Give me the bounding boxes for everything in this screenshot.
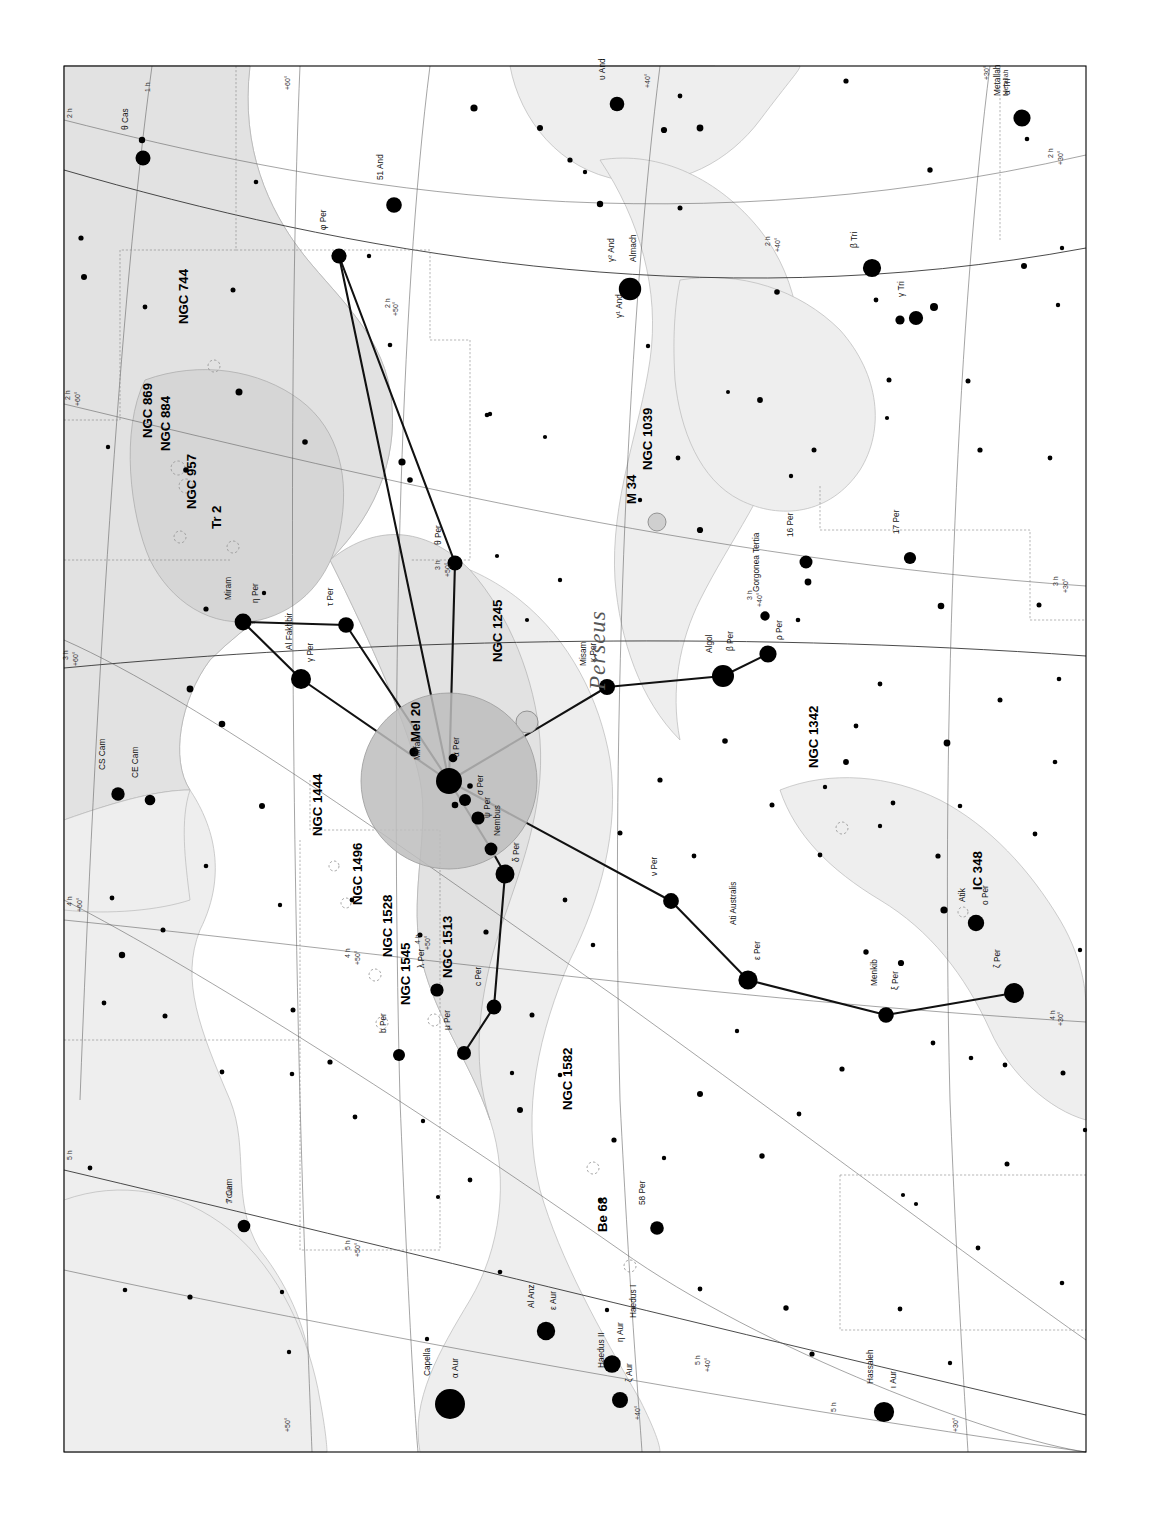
grid-label: 2 h xyxy=(1047,148,1054,158)
field-star xyxy=(726,390,730,394)
field-star xyxy=(931,1041,936,1046)
label-m-34: M 34 xyxy=(624,474,639,504)
label--per: ξ Per xyxy=(890,971,900,990)
field-star xyxy=(854,724,859,729)
grid-label: Metallah xyxy=(1002,69,1009,96)
star--and xyxy=(610,97,625,112)
label-capella: Capella xyxy=(422,1347,432,1376)
field-star xyxy=(1033,832,1038,837)
field-star xyxy=(735,1029,739,1033)
label--per: ψ Per xyxy=(482,797,492,818)
grid-label: 3 h xyxy=(62,650,69,660)
star--aur xyxy=(612,1392,628,1408)
field-star xyxy=(163,1014,168,1019)
field-star xyxy=(219,721,226,728)
field-star xyxy=(203,606,208,611)
field-star xyxy=(106,445,110,449)
field-star xyxy=(436,1195,440,1199)
grid-label: 3 h xyxy=(746,590,753,600)
label--per: φ Per xyxy=(318,209,328,230)
grid-label: +50° xyxy=(354,1242,361,1257)
field-star xyxy=(1078,948,1082,952)
grid-label: +30° xyxy=(1057,150,1064,165)
label-ngc-884: NGC 884 xyxy=(158,395,173,451)
field-star xyxy=(591,943,596,948)
field-star xyxy=(236,389,243,396)
label-nembus: Nembus xyxy=(492,805,502,836)
grid-label: +60° xyxy=(76,897,83,912)
label--and: γ¹ And xyxy=(614,294,624,318)
label-cs-cam: CS Cam xyxy=(97,739,107,770)
field-star xyxy=(874,298,879,303)
star-16-per xyxy=(800,556,813,569)
label-b-per: b Per xyxy=(378,1013,388,1033)
field-star xyxy=(187,1294,192,1299)
field-star xyxy=(517,1107,523,1113)
label-51-and: 51 And xyxy=(375,154,385,180)
label--cas: θ Cas xyxy=(120,108,130,130)
field-star xyxy=(367,254,371,258)
constellation-name: Perseus xyxy=(585,610,610,691)
field-star xyxy=(891,801,896,806)
star--per xyxy=(459,794,471,806)
star--per xyxy=(712,665,734,687)
field-star xyxy=(818,853,823,858)
label--aur: η Aur xyxy=(615,1322,625,1342)
grid-label: +40° xyxy=(644,73,651,88)
label-16-per: 16 Per xyxy=(785,512,795,537)
star--per xyxy=(338,617,354,633)
field-star xyxy=(231,288,236,293)
field-star xyxy=(262,591,266,595)
label--aur: α Aur xyxy=(450,1358,460,1378)
field-star xyxy=(1060,1281,1065,1286)
label-ngc-869: NGC 869 xyxy=(140,383,155,438)
label--tri: β Tri xyxy=(849,231,859,248)
field-star xyxy=(759,1153,764,1158)
field-star xyxy=(697,527,703,533)
field-star xyxy=(498,1270,503,1275)
star-ce-cam xyxy=(145,795,156,806)
label--per: δ Per xyxy=(511,842,521,862)
field-star xyxy=(1057,677,1062,682)
field-star xyxy=(901,1193,905,1197)
field-star xyxy=(678,206,683,211)
label-hassaleh: Hassaleh xyxy=(865,1349,875,1384)
field-star xyxy=(940,906,947,913)
field-star xyxy=(935,853,940,858)
field-star xyxy=(353,1115,358,1120)
label-algol: Algol xyxy=(704,634,714,653)
label-ngc-1245: NGC 1245 xyxy=(490,600,505,662)
field-star xyxy=(657,777,662,782)
label-17-per: 17 Per xyxy=(891,509,901,534)
label-mirfak: Mirfak xyxy=(412,737,422,760)
field-star xyxy=(944,740,951,747)
star--aur xyxy=(874,1402,894,1422)
grid-label: +30° xyxy=(952,1417,959,1432)
field-star xyxy=(809,1351,814,1356)
field-star xyxy=(722,738,728,744)
field-star xyxy=(78,235,83,240)
field-star xyxy=(887,378,892,383)
field-star xyxy=(966,379,971,384)
label-mel-20: Mel 20 xyxy=(408,702,423,742)
field-star xyxy=(525,618,529,622)
grid-label: 4 h xyxy=(66,896,73,906)
field-star xyxy=(143,305,148,310)
field-star xyxy=(485,413,490,418)
field-star xyxy=(1003,1063,1008,1068)
label--per: β Per xyxy=(725,631,735,651)
field-star xyxy=(678,94,683,99)
star-7-cam xyxy=(238,1220,251,1233)
constellation-name-layer: Perseus xyxy=(585,610,610,691)
star--per xyxy=(878,1007,893,1022)
star--per xyxy=(738,970,757,989)
label-ati-australis: Ati Australis xyxy=(728,882,738,925)
star--tri xyxy=(895,315,904,324)
star--tri xyxy=(863,259,881,277)
label--per: η Per xyxy=(250,583,260,603)
grid-label: 3 h xyxy=(1052,576,1059,586)
field-star xyxy=(119,952,125,958)
label--per: τ Per xyxy=(325,587,335,606)
dso-be-68 xyxy=(624,1260,636,1272)
field-star xyxy=(661,127,667,133)
